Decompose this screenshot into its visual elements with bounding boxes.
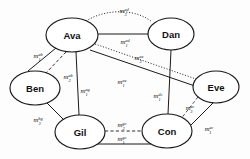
edge-label-ec3: mec3 bbox=[186, 104, 195, 114]
node-dan[interactable]: Dan bbox=[148, 18, 194, 50]
edge-label-ab2-text: mab2 bbox=[63, 73, 73, 83]
node-eve[interactable]: Eve bbox=[193, 71, 239, 103]
edge-label-ae3: mae3 bbox=[135, 54, 144, 64]
edge-label-ag1: mag1 bbox=[80, 87, 90, 97]
edge-label-ec1: mec1 bbox=[205, 125, 214, 135]
edge-label-ae1-text: mae1 bbox=[118, 78, 127, 88]
edge-label-gc1-text: mgc1 bbox=[118, 135, 127, 145]
edge-ava-eve-3 bbox=[95, 44, 196, 79]
edge-label-gc2: mgc2 bbox=[118, 121, 127, 131]
edge-dan-con-1 bbox=[168, 50, 171, 114]
edge-label-dc1-text: mdc1 bbox=[154, 92, 163, 102]
edge-label-ae3-text: mae3 bbox=[135, 54, 144, 64]
edge-label-ad3-text: mad3 bbox=[119, 7, 129, 17]
edge-ava-ben-2 bbox=[46, 52, 66, 73]
node-ben[interactable]: Ben bbox=[10, 71, 60, 105]
edge-ava-gil-1 bbox=[76, 52, 79, 115]
node-gil[interactable]: Gil bbox=[55, 115, 105, 149]
node-eve-label: Eve bbox=[208, 82, 225, 93]
node-con[interactable]: Con bbox=[142, 114, 192, 148]
node-ava-label: Ava bbox=[63, 30, 81, 41]
edge-label-gc1: mgc1 bbox=[118, 135, 127, 145]
edge-label-dc1: mdc1 bbox=[154, 92, 163, 102]
diagram-canvas: Ava Dan Ben Eve Gil Con mad3 bbox=[0, 0, 250, 159]
edge-ben-gil-3 bbox=[46, 102, 65, 121]
message-passing-diagram: Ava Dan Ben Eve Gil Con mad3 bbox=[0, 0, 250, 159]
node-gil-label: Gil bbox=[74, 127, 87, 138]
edge-label-bg3-text: mbg3 bbox=[33, 116, 43, 126]
edge-label-ae1: mae1 bbox=[118, 78, 127, 88]
node-con-label: Con bbox=[158, 126, 177, 137]
edge-label-ec1-text: mec1 bbox=[205, 125, 214, 135]
edge-label-ad3: mad3 bbox=[119, 7, 129, 17]
node-ben-label: Ben bbox=[26, 83, 44, 94]
node-ava[interactable]: Ava bbox=[46, 18, 98, 52]
edge-label-ab2: mab2 bbox=[63, 73, 73, 83]
edge-label-ad1-text: mad1 bbox=[120, 38, 130, 48]
edge-label-gc2-text: mgc2 bbox=[118, 121, 127, 131]
edge-label-ec3-text: mec3 bbox=[186, 104, 195, 114]
edge-label-ad1: mad1 bbox=[120, 38, 130, 48]
edge-label-bg3: mbg3 bbox=[33, 116, 43, 126]
node-dan-label: Dan bbox=[162, 29, 180, 40]
edge-label-ag1-text: mag1 bbox=[80, 87, 90, 97]
